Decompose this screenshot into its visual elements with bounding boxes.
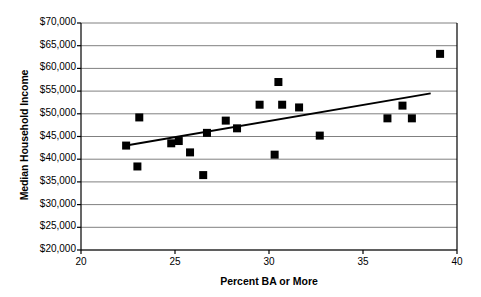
data-point-marker (175, 137, 183, 145)
data-point-marker (233, 124, 241, 132)
data-point-marker (203, 129, 211, 137)
data-point-marker (222, 117, 230, 125)
data-point-marker (167, 139, 175, 147)
data-points (122, 50, 444, 179)
data-point-marker (133, 162, 141, 170)
data-point-marker (436, 50, 444, 58)
data-point-marker (295, 103, 303, 111)
data-point-marker (278, 101, 286, 109)
data-point-marker (316, 132, 324, 140)
data-point-marker (383, 114, 391, 122)
data-point-marker (199, 171, 207, 179)
data-point-marker (398, 102, 406, 110)
data-point-marker (256, 101, 264, 109)
scatter-chart: Median Household Income Percent BA or Mo… (0, 0, 481, 297)
data-point-marker (186, 148, 194, 156)
gridlines (81, 23, 457, 250)
data-point-marker (274, 78, 282, 86)
data-point-marker (408, 114, 416, 122)
data-point-marker (135, 113, 143, 121)
data-point-marker (271, 151, 279, 159)
axis-tick-marks (77, 23, 457, 254)
data-point-marker (122, 142, 130, 150)
plot-area (0, 0, 481, 297)
